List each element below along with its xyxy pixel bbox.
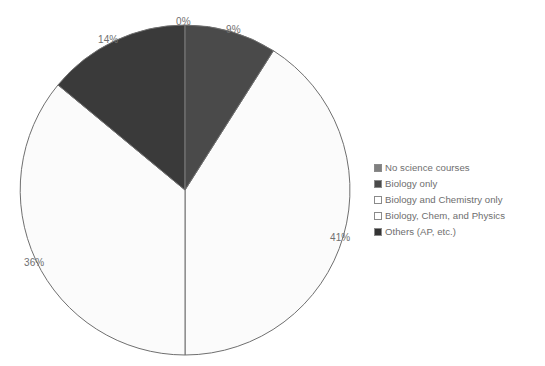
legend-item-biology-only[interactable]: Biology only <box>374 176 534 192</box>
pie-label-no-science-courses: 0% <box>176 16 191 28</box>
legend-item-label: Biology, Chem, and Physics <box>385 210 505 222</box>
legend-item-biology-chem-and-physics[interactable]: Biology, Chem, and Physics <box>374 208 534 224</box>
legend-swatch-icon <box>374 212 382 220</box>
legend-item-no-science-courses[interactable]: No science courses <box>374 160 534 176</box>
legend-swatch-icon <box>374 196 382 204</box>
legend-swatch-icon <box>374 164 382 172</box>
legend-item-biology-and-chemistry-only[interactable]: Biology and Chemistry only <box>374 192 534 208</box>
legend-item-label: Others (AP, etc.) <box>385 226 456 238</box>
pie-label-biology-chem-and-physics: 36% <box>24 257 44 269</box>
pie-label-biology-and-chemistry-only: 41% <box>330 232 350 244</box>
legend-item-label: Biology and Chemistry only <box>385 194 503 206</box>
chart-legend: No science courses Biology only Biology … <box>374 160 534 240</box>
legend-item-others[interactable]: Others (AP, etc.) <box>374 224 534 240</box>
legend-item-label: Biology only <box>385 178 437 190</box>
pie-chart-figure: 0% 9% 14% 41% 36% No science courses Bio… <box>0 0 545 366</box>
legend-swatch-icon <box>374 180 382 188</box>
pie-label-others: 14% <box>98 34 118 46</box>
legend-item-label: No science courses <box>385 162 470 174</box>
pie-label-biology-only: 9% <box>226 24 241 36</box>
legend-swatch-icon <box>374 228 382 236</box>
